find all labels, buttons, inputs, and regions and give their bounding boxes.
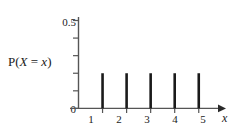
x-axis-group (70, 105, 226, 113)
plot-area (0, 0, 236, 132)
x-axis-arrow-icon (218, 105, 226, 113)
y-axis-group (73, 17, 79, 109)
probability-mass-function-chart: P(X = x) x 0.5 0 1 2 3 4 5 (0, 0, 236, 132)
bars-group (103, 73, 199, 108)
